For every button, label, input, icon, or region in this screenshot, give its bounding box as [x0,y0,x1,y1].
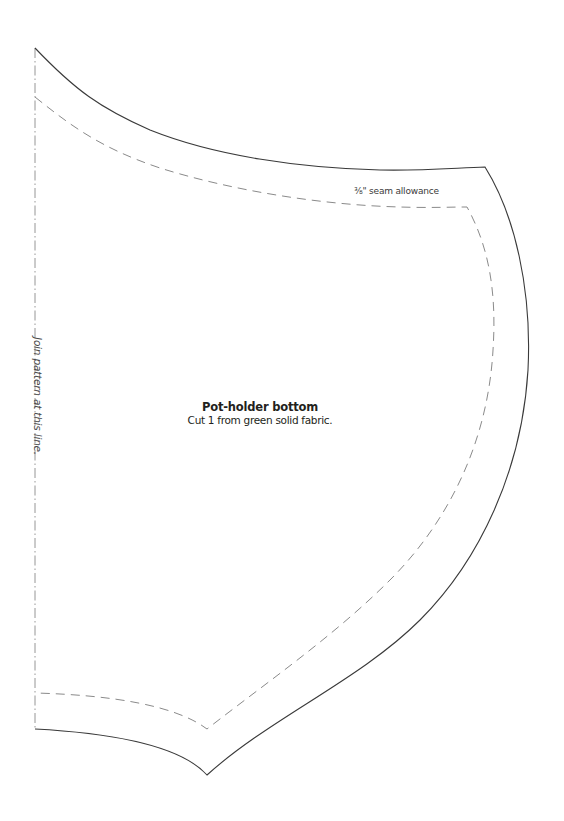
seam-allowance-label: ⅜" seam allowance [354,186,439,196]
join-line-label: Join pattern at this line. [32,337,44,455]
piece-title: Pot-holder bottom [168,400,352,414]
pattern-piece-label: Pot-holder bottom Cut 1 from green solid… [168,400,352,427]
cut-instruction: Cut 1 from green solid fabric. [168,414,352,427]
